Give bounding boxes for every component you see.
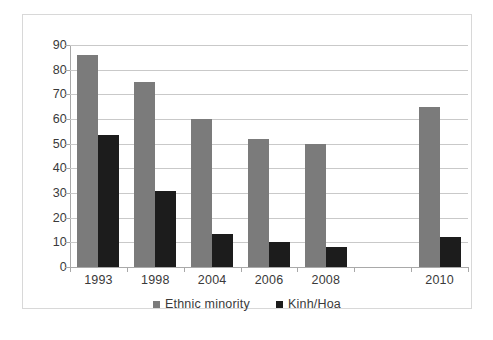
chart-frame: 9080706050403020100 19931998200420062008… [22, 14, 472, 309]
chart-screenshot: 9080706050403020100 19931998200420062008… [0, 0, 493, 340]
bar-ethnic-minority [77, 55, 98, 267]
bar-ethnic-minority [419, 107, 440, 267]
x-tick-label: 2004 [184, 273, 241, 287]
bar-kinh-hoa [440, 237, 461, 267]
x-tick-label: 2006 [241, 273, 298, 287]
x-tick-mark [468, 267, 469, 272]
bar-group [297, 45, 354, 267]
x-tick-mark [184, 267, 185, 272]
bar-kinh-hoa [98, 135, 119, 267]
bar-kinh-hoa [269, 242, 290, 267]
bar-group [354, 45, 411, 267]
y-tick-label: 0 [27, 261, 67, 274]
x-tick-mark [241, 267, 242, 272]
y-tick-label: 60 [27, 113, 67, 126]
bar-ethnic-minority [305, 144, 326, 267]
y-tick-label: 70 [27, 88, 67, 101]
bar-group [411, 45, 468, 267]
x-tick-label: 1993 [70, 273, 127, 287]
bar-kinh-hoa [326, 247, 347, 267]
bar-ethnic-minority [191, 119, 212, 267]
plot-area [70, 45, 468, 267]
bar-kinh-hoa [212, 234, 233, 267]
x-tick-mark [127, 267, 128, 272]
x-tick-mark [70, 267, 71, 272]
y-tick-label: 10 [27, 236, 67, 249]
legend-swatch-icon [153, 301, 160, 308]
y-tick-label: 80 [27, 63, 67, 76]
bar-ethnic-minority [134, 82, 155, 267]
legend-item: Ethnic minority [153, 297, 250, 311]
bar-group [184, 45, 241, 267]
legend-label: Ethnic minority [165, 297, 250, 311]
bar-kinh-hoa [155, 191, 176, 267]
bar-group [127, 45, 184, 267]
x-tick-mark [354, 267, 355, 272]
x-tick-mark [297, 267, 298, 272]
y-axis-labels: 9080706050403020100 [23, 15, 67, 310]
bar-group [241, 45, 298, 267]
y-tick-label: 50 [27, 137, 67, 150]
x-axis-labels: 199319982004200620082010 [70, 273, 468, 287]
y-tick-label: 30 [27, 187, 67, 200]
x-tick-label: 2008 [297, 273, 354, 287]
legend-label: Kinh/Hoa [288, 297, 341, 311]
y-tick-label: 20 [27, 211, 67, 224]
x-tick-label: 2010 [411, 273, 468, 287]
x-axis-line [70, 267, 468, 268]
x-tick-label [354, 273, 411, 287]
x-tick-label: 1998 [127, 273, 184, 287]
chart-legend: Ethnic minorityKinh/Hoa [23, 297, 471, 311]
bar-ethnic-minority [248, 139, 269, 267]
x-tick-mark [411, 267, 412, 272]
legend-item: Kinh/Hoa [276, 297, 341, 311]
y-tick-label: 90 [27, 39, 67, 52]
y-tick-label: 40 [27, 162, 67, 175]
bar-groups [70, 45, 468, 267]
bar-group [70, 45, 127, 267]
legend-swatch-icon [276, 301, 283, 308]
